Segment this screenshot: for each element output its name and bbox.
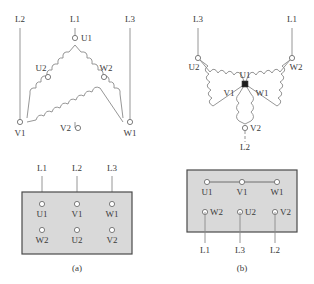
delta-label-v1: V1 — [15, 128, 26, 138]
caption-b: (b) — [237, 263, 248, 273]
delta-label-u1: U1 — [81, 33, 92, 43]
star-label-u1: U1 — [240, 70, 251, 80]
delta-connection-diagram: L2 L1 L3 U1 U2 W2 V1 V2 W1 — [15, 14, 137, 138]
star-winding-bottom-left — [237, 84, 246, 124]
block-a-terminal-w1[interactable] — [109, 201, 114, 206]
star-label-v1: V1 — [224, 88, 235, 98]
star-label-l2: L2 — [240, 142, 250, 152]
star-label-w1: W1 — [256, 88, 269, 98]
star-label-l1: L1 — [287, 14, 297, 24]
delta-label-u2: U2 — [36, 63, 47, 73]
delta-label-w2: W2 — [100, 63, 113, 73]
block-b-line-label-1: L1 — [200, 245, 210, 255]
star-connection-diagram: L3 U2 L1 W2 U1 V1 W1 V2 L2 — [189, 14, 303, 152]
block-a-line-label-1: L1 — [37, 163, 47, 173]
block-a-label-w2: W2 — [36, 235, 49, 245]
block-b-line-label-2: L3 — [235, 245, 245, 255]
star-label-w2: W2 — [290, 62, 303, 72]
block-a-line-label-2: L2 — [72, 163, 82, 173]
block-a-terminal-w2[interactable] — [39, 227, 44, 232]
figure-root: L2 L1 L3 U1 U2 W2 V1 V2 W1 L3 — [0, 0, 314, 284]
block-a-terminal-v2[interactable] — [109, 227, 114, 232]
star-winding-right-upper — [245, 60, 290, 106]
delta-winding-left — [27, 45, 75, 118]
star-label-u2: U2 — [189, 62, 200, 72]
delta-label-v2: V2 — [60, 123, 71, 133]
delta-label-l3: L3 — [125, 14, 135, 24]
star-label-l3: L3 — [193, 14, 203, 24]
star-terminal-u2[interactable] — [195, 55, 200, 60]
block-a-terminal-v1[interactable] — [74, 201, 79, 206]
block-b-label-u1: U1 — [202, 187, 213, 197]
block-a-label-u2: U2 — [72, 235, 83, 245]
block-b-terminal-v1[interactable] — [239, 179, 244, 184]
delta-label-l2: L2 — [15, 14, 25, 24]
delta-terminal-u1[interactable] — [72, 35, 77, 40]
star-winding-bottom-right — [245, 84, 254, 124]
star-winding-left-upper — [200, 60, 245, 106]
star-label-v2: V2 — [250, 123, 261, 133]
delta-terminal-w2[interactable] — [101, 74, 106, 79]
block-b-terminal-u1[interactable] — [204, 179, 209, 184]
block-a-line-label-3: L3 — [107, 163, 117, 173]
delta-terminal-v1[interactable] — [17, 119, 22, 124]
star-terminal-w2[interactable] — [289, 55, 294, 60]
block-b-line-label-3: L2 — [270, 245, 280, 255]
block-b-terminal-w1[interactable] — [274, 179, 279, 184]
terminal-block-delta: L1 L2 L3 U1 V1 W1 W2 U2 V2 (a) — [22, 163, 132, 273]
delta-terminal-w1[interactable] — [127, 119, 132, 124]
block-b-label-v1: V1 — [237, 187, 248, 197]
delta-label-w1: W1 — [124, 128, 137, 138]
block-b-label-w1: W1 — [271, 187, 284, 197]
star-terminal-v2[interactable] — [242, 125, 247, 130]
delta-terminal-u2[interactable] — [45, 74, 50, 79]
block-b-label-w2: W2 — [210, 207, 223, 217]
block-a-terminal-u2[interactable] — [74, 227, 79, 232]
block-a-label-v2: V2 — [107, 235, 118, 245]
block-a-terminal-u1[interactable] — [39, 201, 44, 206]
block-b-label-u2: U2 — [245, 207, 256, 217]
block-b-label-v2: V2 — [280, 207, 291, 217]
delta-terminal-v2[interactable] — [75, 125, 80, 130]
delta-winding-right — [75, 45, 123, 118]
block-a-label-u1: U1 — [37, 209, 48, 219]
delta-winding-bottom — [27, 87, 123, 122]
block-a-label-w1: W1 — [106, 209, 119, 219]
terminal-block-star: U1 V1 W1 W2 U2 V2 L1 L3 L2 (b) — [187, 170, 297, 273]
caption-a: (a) — [72, 263, 82, 273]
star-neutral-node — [242, 81, 248, 87]
block-a-label-v1: V1 — [72, 209, 83, 219]
delta-label-l1: L1 — [70, 14, 80, 24]
